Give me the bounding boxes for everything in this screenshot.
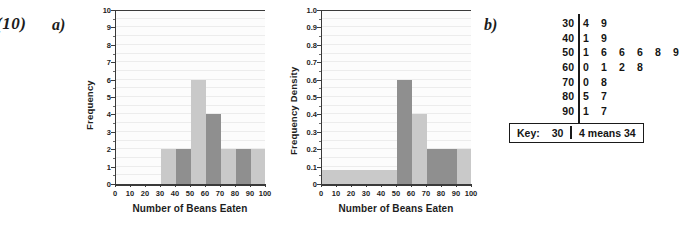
y-tick-label: 1.0	[307, 6, 317, 15]
stem-and-leaf-diagram: 3049401950166689600128700880579017	[548, 16, 681, 118]
leaf-value: 6	[601, 46, 619, 58]
chart2-x-axis-label: Number of Beans Eaten	[321, 203, 471, 214]
stem-leaf-row: 50166689	[548, 45, 681, 60]
y-minor-tick	[319, 123, 322, 124]
x-tick-label: 90	[246, 189, 254, 198]
y-minor-tick	[113, 88, 116, 89]
stem-value: 70	[548, 76, 574, 88]
leaf-value: 8	[601, 76, 619, 88]
gridline	[116, 26, 265, 27]
question-number: (10)	[0, 14, 26, 34]
x-tick	[265, 184, 266, 187]
x-tick-label: 0	[319, 189, 323, 198]
x-tick-label: 100	[259, 189, 272, 198]
y-tick	[317, 149, 321, 150]
x-tick	[411, 184, 412, 187]
leaf-group: 166689	[583, 46, 681, 58]
y-tick	[317, 167, 321, 168]
leaf-value: 8	[655, 46, 673, 58]
gridline	[116, 70, 265, 71]
y-minor-tick	[113, 123, 116, 124]
gridline	[116, 18, 265, 19]
gridline	[116, 61, 265, 62]
x-tick	[220, 184, 221, 187]
x-tick	[456, 184, 457, 187]
y-minor-tick	[113, 106, 116, 107]
y-minor-tick	[113, 54, 116, 55]
key-meaning: 4 means 34	[579, 127, 636, 139]
y-minor-tick	[113, 36, 116, 37]
leaf-value: 1	[583, 32, 601, 44]
gridline	[116, 44, 265, 45]
y-minor-tick	[319, 106, 322, 107]
y-minor-tick	[319, 54, 322, 55]
x-tick	[366, 184, 367, 187]
x-tick	[426, 184, 427, 187]
part-a-label: a)	[52, 16, 65, 34]
key-label: Key:	[517, 127, 540, 139]
y-tick	[317, 132, 321, 133]
chart2-plot-area	[321, 10, 471, 184]
y-tick	[317, 62, 321, 63]
y-tick-label: 0.7	[307, 58, 317, 67]
leaf-value: 9	[601, 32, 619, 44]
x-tick-label: 10	[332, 189, 340, 198]
y-minor-tick	[113, 175, 116, 176]
gridline	[322, 26, 471, 27]
y-tick-label: 0.8	[307, 40, 317, 49]
y-tick	[111, 27, 115, 28]
stem-leaf-row: 600128	[548, 60, 681, 75]
y-minor-tick	[113, 19, 116, 20]
x-tick-label: 100	[465, 189, 478, 198]
y-tick-label: 0.1	[307, 162, 317, 171]
leaf-group: 49	[583, 17, 619, 29]
y-minor-tick	[319, 175, 322, 176]
chart1-plot-area	[115, 10, 265, 184]
y-tick	[111, 80, 115, 81]
y-minor-tick	[319, 158, 322, 159]
leaf-value: 9	[673, 46, 681, 58]
y-tick	[111, 62, 115, 63]
x-tick	[130, 184, 131, 187]
x-tick	[351, 184, 352, 187]
histogram-bar	[221, 149, 236, 184]
leaf-value: 0	[583, 76, 601, 88]
stem-leaf-row: 8057	[548, 89, 681, 104]
leaf-value: 2	[619, 61, 637, 73]
y-tick	[317, 27, 321, 28]
x-tick	[336, 184, 337, 187]
y-tick-label: 0.2	[307, 145, 317, 154]
x-tick-label: 90	[452, 189, 460, 198]
y-tick	[317, 184, 321, 185]
x-tick	[190, 184, 191, 187]
x-tick	[381, 184, 382, 187]
histogram-bar	[206, 114, 221, 184]
stem-leaf-row: 4019	[548, 31, 681, 46]
x-tick-label: 80	[437, 189, 445, 198]
leaf-value: 0	[583, 61, 601, 73]
leaf-value: 8	[637, 61, 655, 73]
y-tick	[317, 10, 321, 11]
x-tick-label: 30	[362, 189, 370, 198]
y-minor-tick	[319, 19, 322, 20]
x-tick-label: 80	[231, 189, 239, 198]
gridline	[322, 44, 471, 45]
y-tick	[111, 132, 115, 133]
x-tick	[205, 184, 206, 187]
x-tick	[175, 184, 176, 187]
y-minor-tick	[113, 71, 116, 72]
leaf-value: 1	[583, 46, 601, 58]
x-tick-label: 40	[171, 189, 179, 198]
leaf-value: 7	[601, 90, 619, 102]
y-minor-tick	[113, 158, 116, 159]
y-minor-tick	[319, 141, 322, 142]
key-stem-value: 30	[552, 127, 564, 139]
histogram-bar	[322, 170, 397, 184]
gridline	[322, 18, 471, 19]
stem-leaf-row: 3049	[548, 16, 681, 31]
x-tick-label: 40	[377, 189, 385, 198]
y-tick	[317, 114, 321, 115]
histogram-bar	[397, 80, 412, 184]
y-tick	[111, 10, 115, 11]
leaf-group: 17	[583, 105, 619, 117]
